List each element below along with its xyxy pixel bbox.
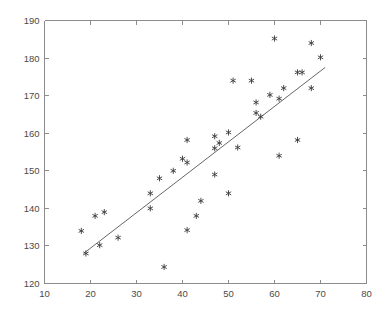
x-tick-label: 50 xyxy=(223,288,234,299)
x-tick-label: 70 xyxy=(315,288,326,299)
data-point-marker xyxy=(102,209,107,215)
data-point-marker xyxy=(253,99,258,105)
x-tick-label: 80 xyxy=(361,288,372,299)
fitted-regression-line xyxy=(84,67,326,253)
data-point-marker xyxy=(226,129,231,135)
data-point-marker xyxy=(198,198,203,204)
data-point-markers xyxy=(79,35,324,270)
data-point-marker xyxy=(295,69,300,75)
data-point-marker xyxy=(148,190,153,196)
data-point-marker xyxy=(253,110,258,116)
y-axis-tick-labels: 120130140150160170180190 xyxy=(24,15,40,289)
data-point-marker xyxy=(212,133,217,139)
data-point-marker xyxy=(180,156,185,162)
y-tick-label: 150 xyxy=(24,165,40,176)
figure-canvas: 1020304050607080 12013014015016017018019… xyxy=(0,0,390,316)
axis-left-bottom xyxy=(45,21,367,284)
data-point-marker xyxy=(226,190,231,196)
scatter-plot: 1020304050607080 12013014015016017018019… xyxy=(0,0,390,316)
data-point-marker xyxy=(115,235,120,241)
x-axis-ticks xyxy=(45,21,367,284)
data-point-marker xyxy=(184,159,189,165)
y-tick-label: 180 xyxy=(24,53,40,64)
data-point-marker xyxy=(299,69,304,75)
data-point-marker xyxy=(212,171,217,177)
axes-frame xyxy=(45,21,367,284)
data-point-marker xyxy=(92,213,97,219)
axis-top-right xyxy=(45,21,367,284)
data-point-marker xyxy=(276,153,281,159)
data-point-marker xyxy=(161,264,166,270)
y-tick-label: 140 xyxy=(24,203,40,214)
data-point-marker xyxy=(281,85,286,91)
x-tick-label: 60 xyxy=(269,288,280,299)
y-tick-label: 170 xyxy=(24,90,40,101)
data-point-marker xyxy=(212,145,217,151)
data-point-marker xyxy=(235,144,240,150)
y-tick-label: 120 xyxy=(24,278,40,289)
data-point-marker xyxy=(171,168,176,174)
data-point-marker xyxy=(217,140,222,146)
x-tick-label: 30 xyxy=(131,288,142,299)
x-tick-label: 10 xyxy=(39,288,50,299)
data-point-marker xyxy=(267,92,272,98)
data-point-marker xyxy=(148,205,153,211)
data-point-marker xyxy=(295,137,300,143)
regression-line xyxy=(84,67,326,253)
data-point-marker xyxy=(309,85,314,91)
data-point-marker xyxy=(249,78,254,84)
data-point-marker xyxy=(272,35,277,41)
data-point-marker xyxy=(194,213,199,219)
data-point-marker xyxy=(318,54,323,60)
x-tick-label: 20 xyxy=(85,288,96,299)
x-axis-tick-labels: 1020304050607080 xyxy=(39,288,372,299)
y-axis-ticks xyxy=(45,21,367,284)
y-tick-label: 190 xyxy=(24,15,40,26)
data-point-marker xyxy=(230,78,235,84)
y-tick-label: 130 xyxy=(24,240,40,251)
data-point-marker xyxy=(276,96,281,102)
x-tick-label: 40 xyxy=(177,288,188,299)
data-point-marker xyxy=(184,227,189,233)
data-point-marker xyxy=(79,228,84,234)
data-point-marker xyxy=(157,175,162,181)
y-tick-label: 160 xyxy=(24,128,40,139)
data-point-marker xyxy=(184,137,189,143)
data-point-marker xyxy=(309,40,314,46)
